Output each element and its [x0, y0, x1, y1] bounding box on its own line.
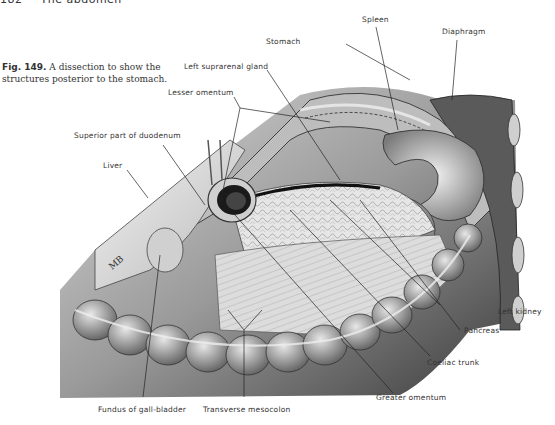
label-greater-omentum: Greater omentum [376, 393, 446, 402]
label-stomach: Stomach [266, 37, 300, 46]
label-diaphragm: Diaphragm [442, 27, 486, 36]
label-left-kidney: Left kidney [498, 307, 542, 316]
label-fundus-of-gall-bladder: Fundus of gall-bladder [98, 405, 186, 414]
label-pancreas: Pancreas [464, 326, 499, 335]
label-spleen: Spleen [362, 15, 389, 24]
label-lesser-omentum: Lesser omentum [168, 88, 234, 97]
label-left-suprarenal-gland: Left suprarenal gland [184, 62, 268, 71]
gall-bladder-shape [147, 228, 183, 272]
label-transverse-mesocolon: Transverse mesocolon [203, 405, 290, 414]
label-coeliac-trunk: Coeliac trunk [427, 358, 479, 367]
label-liver: Liver [103, 161, 122, 170]
label-superior-part-of-duodenum: Superior part of duodenum [74, 131, 181, 140]
